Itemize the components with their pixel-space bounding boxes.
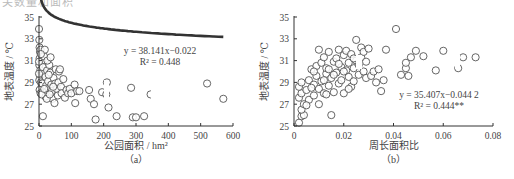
data-point — [47, 54, 54, 61]
y-tick-label: 33 — [280, 34, 290, 44]
r-squared-label: R² = 0.448 — [140, 57, 181, 67]
x-axis-label: 周长面积比 — [369, 140, 419, 151]
data-point — [335, 60, 342, 67]
data-point — [350, 78, 357, 85]
data-point — [60, 76, 67, 83]
y-axis-label: 地表温度 / ℃ — [258, 42, 270, 101]
trend-line-gap — [356, 55, 362, 69]
data-point — [45, 71, 52, 78]
data-point — [378, 88, 385, 95]
trend-line — [39, 0, 223, 37]
data-point — [320, 77, 327, 84]
trend-line-gap — [151, 80, 158, 102]
data-point — [330, 71, 337, 78]
chart-panel-b: 25272931333500.020.040.060.08地表温度 / ℃周长面… — [258, 0, 502, 165]
data-point — [37, 51, 44, 58]
x-tick-label: 500 — [194, 131, 209, 141]
data-point — [405, 72, 412, 79]
data-point — [72, 100, 79, 107]
y-tick-label: 33 — [25, 34, 35, 44]
data-point — [310, 92, 317, 99]
y-axis-label: 地表温度 / ℃ — [3, 42, 15, 101]
data-point — [440, 47, 447, 54]
data-point — [365, 45, 372, 52]
data-point — [460, 54, 467, 61]
x-tick-label: 0.02 — [335, 131, 352, 141]
data-point — [51, 100, 58, 107]
data-point — [472, 54, 479, 61]
data-point — [325, 48, 332, 55]
y-tick-label: 35 — [25, 13, 35, 23]
data-point — [432, 67, 439, 74]
y-tick-label: 35 — [280, 13, 290, 23]
data-point — [407, 54, 414, 61]
data-point — [41, 85, 48, 92]
data-point — [373, 79, 380, 86]
data-point — [141, 113, 148, 120]
data-point — [345, 85, 352, 92]
y-tick-label: 27 — [25, 100, 35, 110]
data-point — [308, 84, 315, 91]
data-point — [298, 79, 305, 86]
y-tick-label: 31 — [280, 56, 290, 66]
data-point — [363, 58, 370, 65]
x-tick-label: 100 — [64, 131, 79, 141]
data-point — [310, 68, 317, 75]
trend-line-gap — [455, 55, 460, 69]
x-tick-label: 0.08 — [485, 131, 502, 141]
figure: 2527293133350100200300400500600地表温度 / ℃公… — [0, 0, 514, 179]
data-point — [340, 68, 347, 75]
data-point — [46, 91, 53, 98]
x-tick-label: 600 — [226, 131, 241, 141]
y-tick-label: 29 — [280, 78, 290, 88]
scatter-points — [295, 25, 479, 126]
data-point — [375, 66, 382, 73]
panel-label: （b） — [381, 154, 406, 165]
data-point — [330, 89, 337, 96]
y-tick-label: 27 — [280, 100, 290, 110]
regression-equation: y = 38.141x−0.022 — [124, 46, 197, 56]
data-point — [56, 66, 63, 73]
data-point — [315, 101, 322, 108]
data-point — [86, 86, 93, 93]
data-point — [128, 84, 135, 91]
data-point — [204, 80, 211, 87]
x-tick-label: 0 — [292, 131, 297, 141]
data-point — [113, 113, 120, 120]
x-tick-label: 0 — [37, 131, 42, 141]
data-point — [76, 88, 83, 95]
data-point — [220, 95, 227, 102]
data-point — [328, 112, 335, 119]
data-point — [382, 46, 389, 53]
data-point — [132, 114, 139, 121]
data-point — [39, 113, 46, 120]
data-point — [323, 91, 330, 98]
x-axis-label: 公园面积 / hm² — [104, 140, 168, 151]
y-tick-label: 29 — [25, 78, 35, 88]
data-point — [420, 53, 427, 60]
data-point — [92, 116, 99, 123]
scatter-points — [35, 25, 227, 123]
data-point — [303, 102, 310, 109]
data-point — [353, 36, 360, 43]
data-point — [380, 77, 387, 84]
data-point — [315, 46, 322, 53]
r-squared-label: R² = 0.444** — [414, 101, 464, 111]
y-tick-label: 25 — [25, 122, 35, 132]
data-point — [338, 77, 345, 84]
data-point — [397, 71, 404, 78]
panel-label: （a） — [124, 154, 148, 165]
chart-panel-a: 2527293133350100200300400500600地表温度 / ℃公… — [3, 0, 240, 165]
data-point — [392, 25, 399, 32]
regression-equation: y = 35.407x−0.044 2 — [399, 90, 479, 100]
data-point — [50, 83, 57, 90]
trend-line-gap — [187, 80, 193, 102]
y-tick-label: 25 — [280, 122, 290, 132]
data-point — [90, 101, 97, 108]
y-tick-label: 31 — [25, 56, 35, 66]
data-point — [105, 104, 112, 111]
trend-line-gap — [104, 80, 109, 102]
x-tick-label: 0.06 — [435, 131, 452, 141]
data-point — [412, 47, 419, 54]
